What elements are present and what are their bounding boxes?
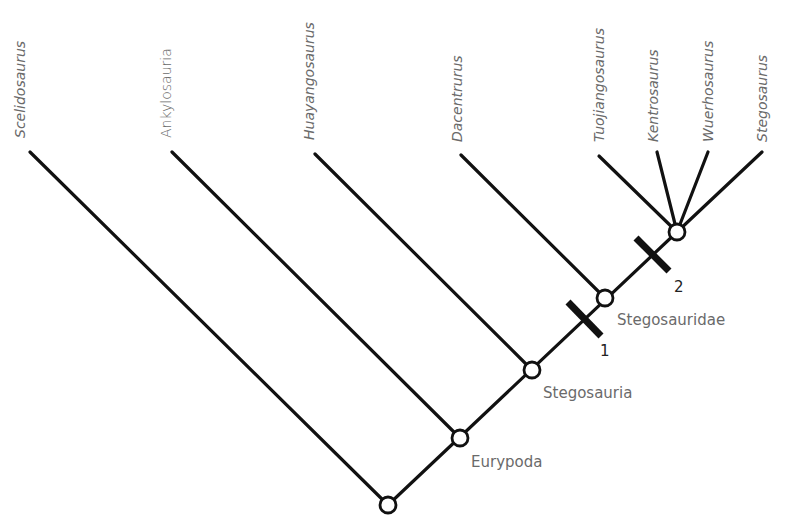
character-markers: 1 2 — [568, 238, 684, 360]
taxon-labels: Scelidosaurus Ankylosauria Huayangosauru… — [12, 22, 770, 142]
taxon-label-wuerhosaurus: Wuerhosaurus — [700, 41, 716, 142]
node-stegosauria — [524, 362, 540, 378]
taxon-label-ankylosauria: Ankylosauria — [158, 48, 174, 138]
branch-huayangosaurus — [315, 154, 532, 370]
taxon-label-scelidosaurus: Scelidosaurus — [12, 41, 28, 138]
node-stegosauridae — [597, 290, 613, 306]
node-stegosaurinae — [669, 224, 685, 240]
taxon-label-tuojiangosaurus: Tuojiangosaurus — [591, 28, 607, 142]
branch-dacentrurus — [461, 155, 605, 298]
node-root — [380, 497, 396, 513]
taxon-label-dacentrurus: Dacentrurus — [449, 55, 465, 142]
taxon-label-kentrosaurus: Kentrosaurus — [645, 49, 661, 142]
taxon-label-huayangosaurus: Huayangosaurus — [301, 22, 317, 140]
node-eurypoda — [452, 430, 468, 446]
marker-label-1: 1 — [600, 342, 610, 360]
clade-label-stegosauridae: Stegosauridae — [617, 311, 725, 329]
clade-label-eurypoda: Eurypoda — [471, 453, 542, 471]
clade-label-stegosauria: Stegosauria — [543, 384, 632, 402]
branch-ankylosauria — [172, 152, 460, 438]
cladogram: 1 2 Eurypoda Stegosauria Stegosauridae S… — [0, 0, 790, 526]
branch-stegosaurus — [677, 152, 762, 232]
branch-tuojiangosaurus — [599, 156, 677, 232]
marker-label-2: 2 — [674, 278, 684, 296]
taxon-label-stegosaurus: Stegosaurus — [754, 55, 770, 142]
branch-wuerhosaurus — [677, 152, 708, 232]
branch-scelidosaurus — [30, 152, 388, 505]
branch-kentrosaurus — [657, 152, 677, 232]
